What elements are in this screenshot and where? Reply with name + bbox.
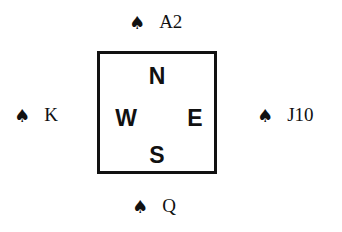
- south-hand: ♠ Q: [132, 195, 176, 217]
- spade-icon: ♠: [257, 105, 273, 126]
- compass-north: N: [149, 65, 166, 88]
- north-hand: ♠ A2: [129, 11, 182, 33]
- west-cards: K: [44, 104, 58, 126]
- spade-icon: ♠: [14, 105, 30, 126]
- east-cards: J10: [287, 104, 313, 126]
- compass-east: E: [187, 107, 202, 130]
- north-cards: A2: [159, 11, 182, 33]
- compass-south: S: [149, 144, 164, 167]
- east-hand: ♠ J10: [257, 104, 314, 126]
- spade-icon: ♠: [132, 196, 148, 217]
- compass-west: W: [115, 107, 137, 130]
- south-cards: Q: [162, 195, 176, 217]
- spade-icon: ♠: [129, 12, 145, 33]
- west-hand: ♠ K: [14, 104, 58, 126]
- compass-box: N W E S: [97, 51, 217, 174]
